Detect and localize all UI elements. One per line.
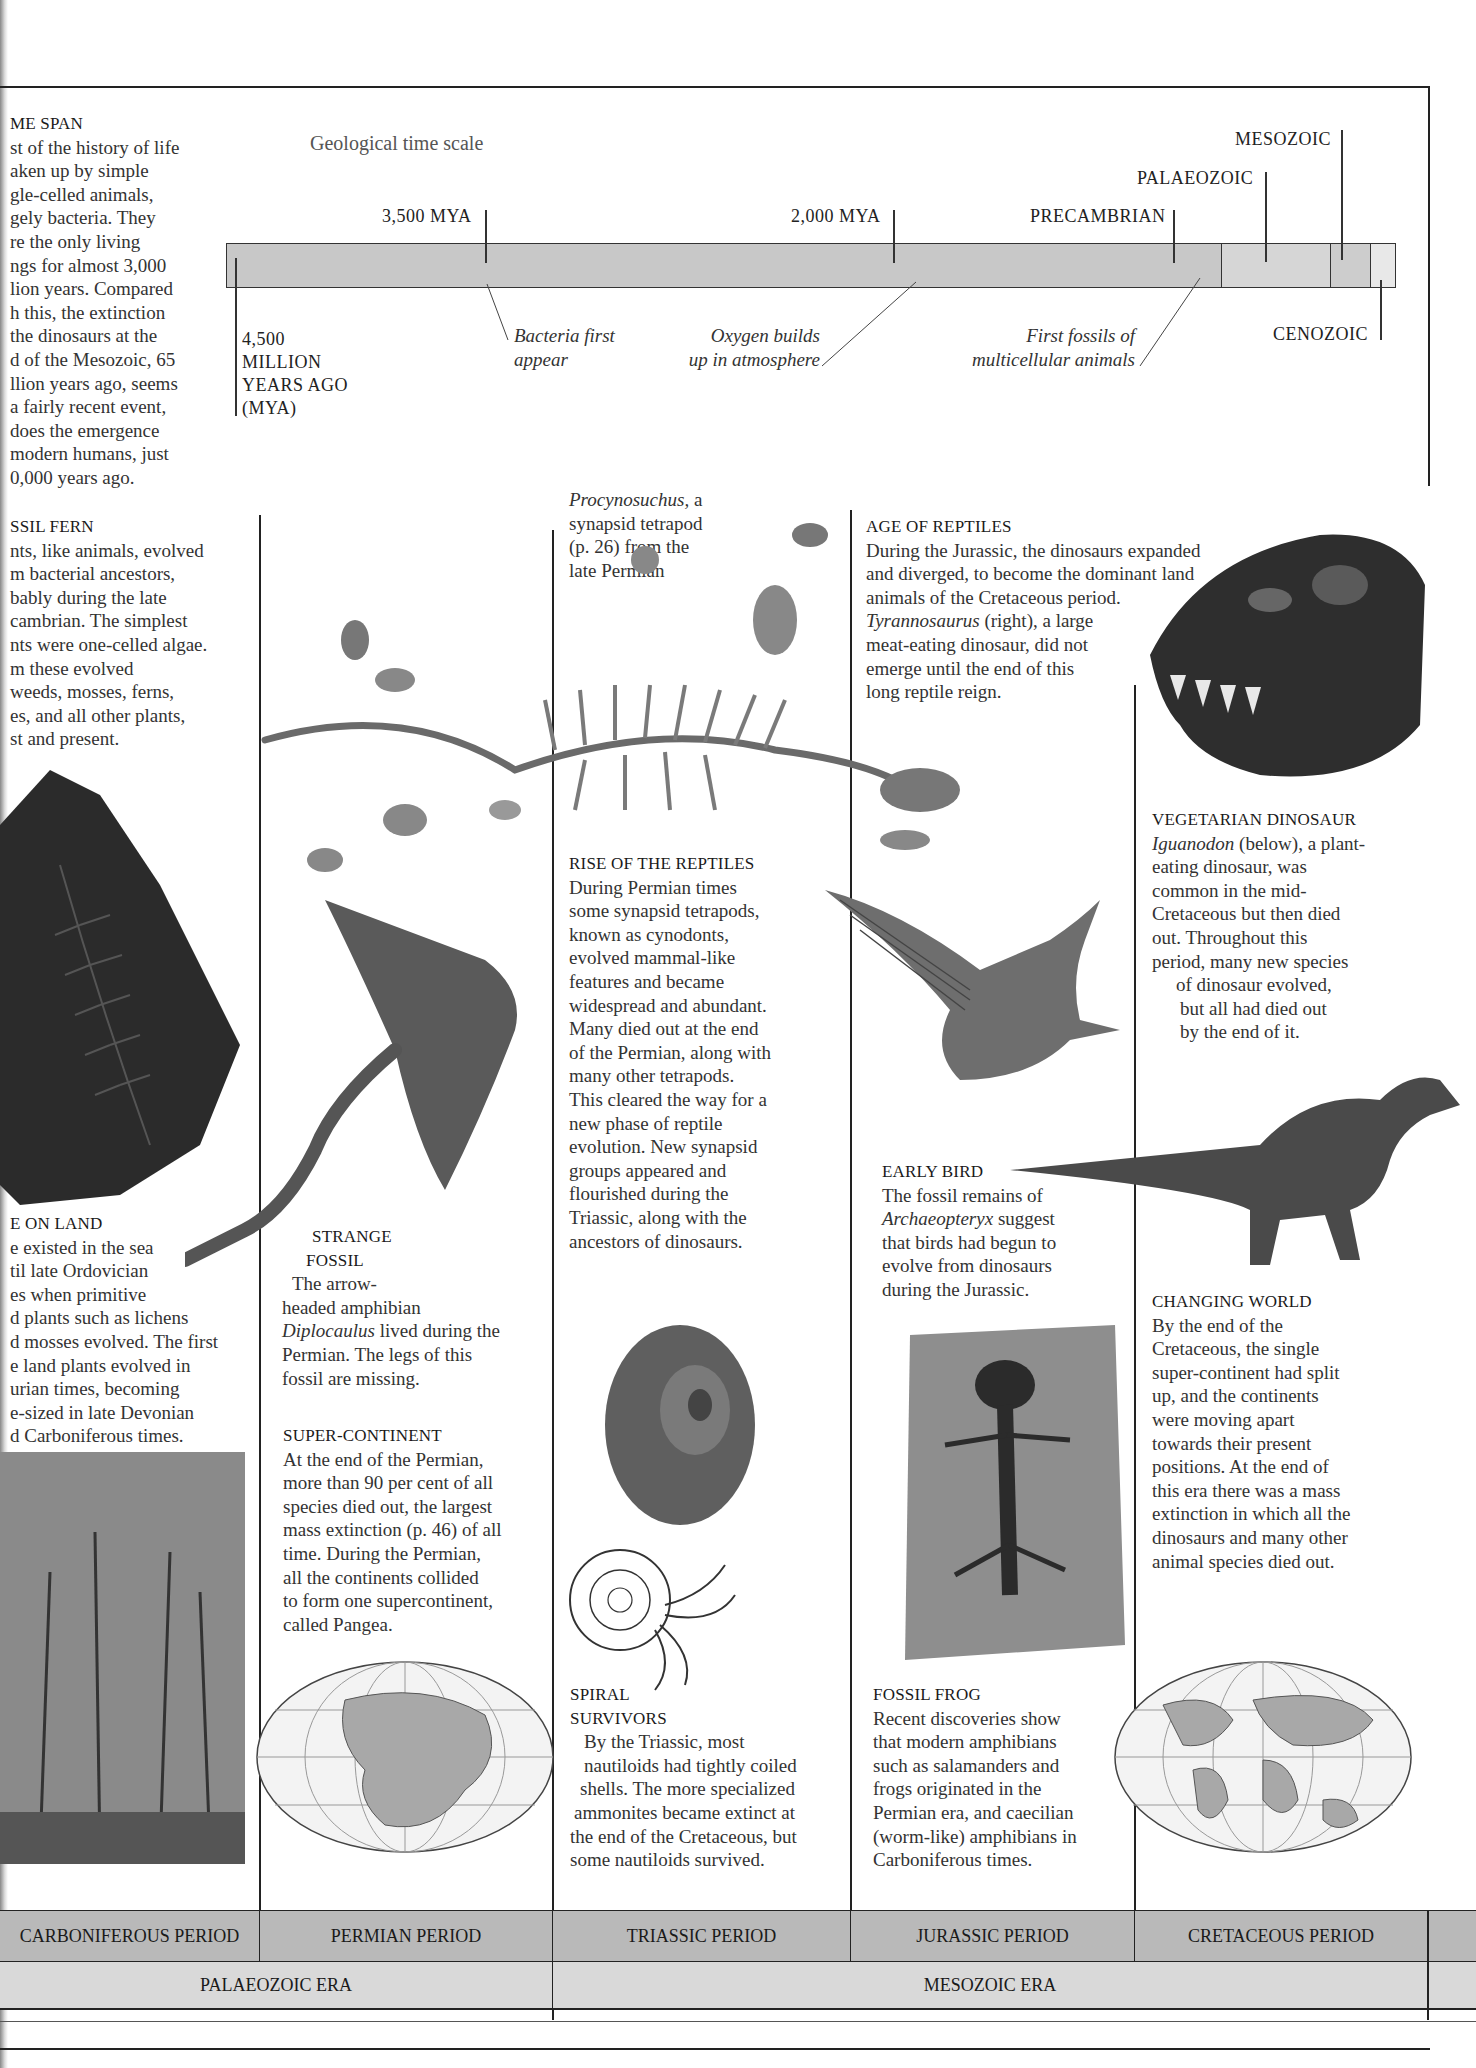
- event-multicellular: First fossils of multicellular animals: [935, 324, 1135, 371]
- period-permian: PERMIAN PERIOD: [260, 1911, 553, 1961]
- period-band-overflow: [1429, 1911, 1476, 1961]
- period-cretaceous: CRETACEOUS PERIOD: [1135, 1911, 1428, 1961]
- era-band-overflow: [1429, 1962, 1476, 2008]
- period-jurassic: JURASSIC PERIOD: [851, 1911, 1135, 1961]
- section-changing-world: CHANGING WORLD By the end of the Cretace…: [1152, 1290, 1350, 1573]
- section-fossil-fern: SSIL FERN nts, like animals, evolved m b…: [10, 515, 207, 751]
- fossil-frog-image: [895, 1325, 1125, 1660]
- section-spiral-survivors: SPIRAL SURVIVORS By the Triassic, most n…: [570, 1683, 797, 1872]
- diplocaulus-fossil-image: [185, 900, 585, 1280]
- section-early-bird: EARLY BIRD The fossil remains of Archaeo…: [882, 1160, 1056, 1302]
- era-band-bottom-rule: [0, 2008, 1476, 2010]
- footer-thin-rule: [0, 2021, 1476, 2022]
- event-bacteria: Bacteria first appear: [514, 324, 615, 371]
- period-triassic: TRIASSIC PERIOD: [553, 1911, 851, 1961]
- archaeopteryx-image: [820, 880, 1140, 1090]
- footer-thick-rule: [0, 2048, 1430, 2050]
- era-palaeozoic: PALAEOZOIC ERA: [0, 1962, 553, 2008]
- nautilus-drawing: [565, 1545, 755, 1695]
- section-time-span: ME SPAN st of the history of life aken u…: [10, 112, 179, 490]
- tyrannosaurus-skull-image: [1140, 525, 1430, 785]
- section-vegetarian-dinosaur: VEGETARIAN DINOSAUR Iguanodon (below), a…: [1152, 808, 1365, 1044]
- section-super-continent: SUPER-CONTINENT At the end of the Permia…: [283, 1424, 501, 1636]
- ammonite-fossil-image: [600, 1320, 760, 1530]
- period-carboniferous: CARBONIFEROUS PERIOD: [0, 1911, 260, 1961]
- section-strange-fossil: STRANGE FOSSIL The arrow- headed amphibi…: [282, 1225, 500, 1390]
- cretaceous-globe-map: [1113, 1660, 1413, 1855]
- event-oxygen: Oxygen builds up in atmosphere: [680, 324, 820, 371]
- section-life-on-land: E ON LAND e existed in the sea til late …: [10, 1212, 218, 1448]
- section-fossil-frog: FOSSIL FROG Recent discoveries show that…: [873, 1683, 1077, 1872]
- section-rise-of-reptiles: RISE OF THE REPTILES During Permian time…: [569, 852, 771, 1253]
- era-mesozoic: MESOZOIC ERA: [553, 1962, 1428, 2008]
- pangea-globe-map: [255, 1660, 555, 1855]
- carboniferous-forest-engraving: [0, 1452, 245, 1864]
